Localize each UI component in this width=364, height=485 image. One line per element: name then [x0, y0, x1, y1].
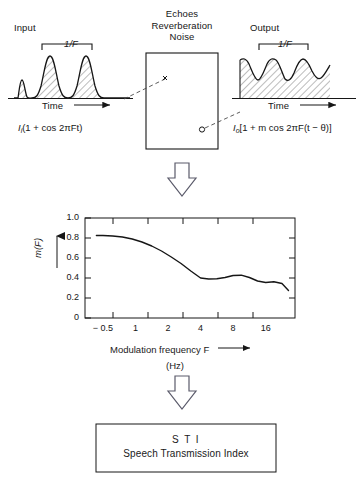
- sti-abbreviation: S T I: [96, 434, 276, 445]
- chart-ytick-label: 0.2: [0, 292, 79, 302]
- output-formula: Io[1 + m cos 2πF(t − θ)]: [233, 122, 332, 134]
- sti-box-text: S T I Speech Transmission Index: [96, 434, 276, 459]
- input-waveform-fill: [14, 56, 130, 98]
- chart-x-axis-label: Modulation frequency F: [110, 344, 209, 355]
- arrow-chart-to-sti: [168, 376, 196, 409]
- input-waveform: [8, 44, 133, 105]
- chart-ytick-label: 1.0: [0, 212, 79, 222]
- output-formula-body: [1 + m cos 2πF(t − θ)]: [240, 122, 332, 133]
- input-period-label: 1/F: [64, 38, 78, 50]
- chart-y-axis-label: m(F): [32, 238, 43, 258]
- chart-plot-frame: [85, 218, 295, 318]
- figure-drawing: [0, 0, 364, 485]
- channel-box: [146, 53, 218, 149]
- input-formula-body: (1 + cos 2πFt): [22, 122, 82, 133]
- input-waveform-curve: [14, 56, 130, 98]
- output-waveform: [232, 44, 356, 105]
- arrow-channel-to-chart: [168, 163, 196, 196]
- sti-block-diagram-figure: Input Echoes Reverberation Noise Output: [0, 0, 364, 485]
- sti-full-name: Speech Transmission Index: [96, 448, 276, 459]
- chart-ytick-label: 0: [0, 312, 79, 322]
- chart-ytick-label: 0.4: [0, 272, 79, 282]
- chart-x-axis-unit: (Hz): [166, 360, 184, 371]
- output-time-axis-label: Time: [268, 100, 289, 112]
- channel-exit-marker: [199, 127, 204, 132]
- output-period-label: 1/F: [278, 38, 292, 50]
- input-formula: Ii(1 + cos 2πFt): [18, 122, 82, 134]
- input-time-axis-label: Time: [42, 100, 63, 112]
- chart-xtick-label: 16: [244, 323, 288, 333]
